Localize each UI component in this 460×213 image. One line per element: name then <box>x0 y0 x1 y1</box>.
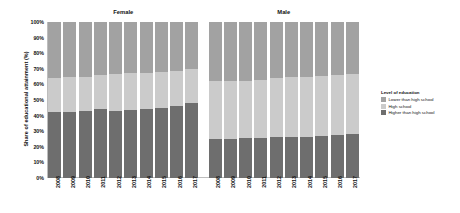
bar-segment <box>155 108 168 178</box>
bar-segment <box>109 111 122 178</box>
bar-column[interactable] <box>331 22 344 178</box>
bar-segment <box>331 135 344 178</box>
bar-column[interactable] <box>224 22 237 178</box>
y-tick-label: 70% <box>33 66 44 72</box>
bar-segment <box>270 137 283 178</box>
y-tick-label: 50% <box>33 97 44 103</box>
y-tick-label: 30% <box>33 128 44 134</box>
bar-column[interactable] <box>63 22 76 178</box>
legend-item[interactable]: Higher than high school <box>381 110 457 115</box>
bar-segment <box>346 74 359 135</box>
bar-column[interactable] <box>48 22 61 178</box>
bar-segment <box>124 73 137 110</box>
bar-column[interactable] <box>109 22 122 178</box>
bar-segment <box>185 103 198 178</box>
bar-segment <box>224 22 237 81</box>
bar-segment <box>285 77 298 136</box>
bar-segment <box>254 138 267 178</box>
x-tick-label: 2017 <box>352 176 358 188</box>
bar-segment <box>315 136 328 178</box>
y-tick-label: 20% <box>33 144 44 150</box>
group-label: Male <box>208 9 361 15</box>
bar-column[interactable] <box>124 22 137 178</box>
bar-segment <box>254 80 267 139</box>
bar-segment <box>94 109 107 178</box>
bar-segment <box>346 22 359 73</box>
bar-column[interactable] <box>285 22 298 178</box>
bar-segment <box>300 22 313 77</box>
x-tick-label: 2012 <box>116 176 122 188</box>
bar-segment <box>254 22 267 80</box>
x-tick-label: 2011 <box>261 176 267 188</box>
bar-column[interactable] <box>140 22 153 178</box>
bar-column[interactable] <box>185 22 198 178</box>
x-tick-label: 2009 <box>70 176 76 188</box>
legend-label: High school <box>388 104 411 109</box>
legend: Level of education Lower than high schoo… <box>381 90 457 117</box>
bar-column[interactable] <box>170 22 183 178</box>
bar-segment <box>94 75 107 109</box>
legend-item[interactable]: High school <box>381 104 457 109</box>
bar-segment <box>155 72 168 108</box>
y-tick-label: 10% <box>33 159 44 165</box>
legend-items: Lower than high schoolHigh schoolHigher … <box>381 97 457 115</box>
bar-segment <box>315 76 328 136</box>
bar-segment <box>124 110 137 178</box>
bar-column[interactable] <box>346 22 359 178</box>
x-tick-label: 2009 <box>230 176 236 188</box>
bar-segment <box>239 138 252 178</box>
x-tick-label: 2008 <box>55 176 61 188</box>
bars <box>47 22 200 178</box>
bar-segment <box>285 22 298 77</box>
bar-column[interactable] <box>239 22 252 178</box>
x-tick-label: 2011 <box>100 176 106 188</box>
y-tick-label: 60% <box>33 81 44 87</box>
bar-column[interactable] <box>300 22 313 178</box>
bar-column[interactable] <box>79 22 92 178</box>
legend-label: Higher than high school <box>388 110 434 115</box>
bar-column[interactable] <box>209 22 222 178</box>
x-tick-label: 2010 <box>85 176 91 188</box>
bar-segment <box>239 22 252 81</box>
legend-swatch <box>381 110 386 115</box>
bar-segment <box>48 78 61 112</box>
bar-segment <box>124 22 137 73</box>
bar-column[interactable] <box>254 22 267 178</box>
bar-segment <box>270 78 283 137</box>
bar-column[interactable] <box>270 22 283 178</box>
bar-segment <box>94 22 107 75</box>
bar-segment <box>185 69 198 103</box>
x-tick-label: 2016 <box>177 176 183 188</box>
bar-column[interactable] <box>315 22 328 178</box>
x-tick-label: 2013 <box>291 176 297 188</box>
legend-label: Lower than high school <box>388 97 433 102</box>
bar-segment <box>79 77 92 111</box>
x-tick-label: 2008 <box>215 176 221 188</box>
bar-segment <box>285 137 298 178</box>
y-tick-label: 80% <box>33 50 44 56</box>
bar-segment <box>185 22 198 69</box>
bar-group-female: Female <box>47 22 200 178</box>
legend-item[interactable]: Lower than high school <box>381 97 457 102</box>
bar-segment <box>170 106 183 178</box>
bar-segment <box>300 137 313 178</box>
x-tick-label: 2014 <box>307 176 313 188</box>
bar-segment <box>170 71 183 106</box>
bar-column[interactable] <box>155 22 168 178</box>
bar-segment <box>224 139 237 178</box>
bars <box>208 22 361 178</box>
x-tick-label: 2015 <box>161 176 167 188</box>
bar-segment <box>224 81 237 139</box>
x-tick-label: 2017 <box>192 176 198 188</box>
bar-segment <box>109 74 122 111</box>
bar-segment <box>209 81 222 139</box>
bar-segment <box>209 139 222 178</box>
bar-segment <box>270 22 283 78</box>
bar-segment <box>331 22 344 75</box>
bar-segment <box>170 22 183 71</box>
bar-column[interactable] <box>94 22 107 178</box>
bar-group-male: Male <box>208 22 361 178</box>
bar-segment <box>315 22 328 76</box>
bar-segment <box>140 22 153 73</box>
x-tick-label: 2014 <box>146 176 152 188</box>
